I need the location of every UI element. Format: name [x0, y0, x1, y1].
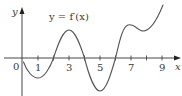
x-axis-label: x — [175, 61, 181, 72]
x-tick-label-9: 9 — [159, 62, 165, 73]
x-tick-label-7: 7 — [128, 62, 134, 73]
x-tick-label-5: 5 — [97, 62, 103, 73]
x-tick-label-3: 3 — [66, 62, 72, 73]
curve-label: y = f′(x) — [48, 11, 89, 22]
y-axis-arrow-icon — [20, 7, 25, 14]
chart-plot: 0 1 3 5 7 9 x y y = f′(x) — [0, 0, 182, 96]
x-tick-label-1: 1 — [35, 62, 41, 73]
y-axis-label: y — [11, 6, 18, 17]
origin-label: 0 — [13, 61, 19, 72]
x-axis-arrow-icon — [174, 56, 181, 61]
derivative-curve — [24, 5, 164, 91]
